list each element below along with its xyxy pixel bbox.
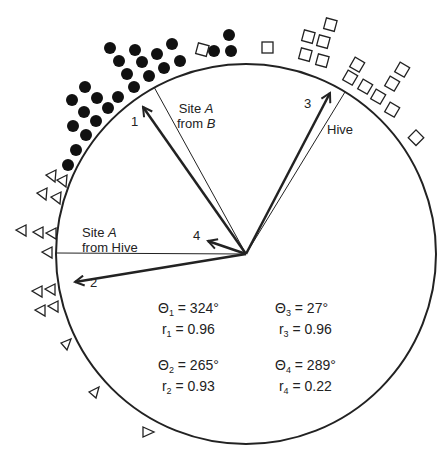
label-text: Site bbox=[82, 225, 108, 240]
stat-2: Θ2 = 265° r2 = 0.93 bbox=[158, 357, 219, 399]
r-value: = 0.96 bbox=[292, 321, 331, 337]
site-a-from-b-label: Site A from B bbox=[177, 101, 215, 131]
stat-3: Θ3 = 27° r3 = 0.96 bbox=[275, 300, 332, 342]
theta-symbol: Θ bbox=[275, 300, 286, 316]
r-value: = 0.93 bbox=[175, 378, 214, 394]
label-italic: A bbox=[108, 225, 117, 240]
theta-value: = 27° bbox=[295, 300, 328, 316]
arrow-4-label: 4 bbox=[193, 228, 200, 243]
label-italic: B bbox=[207, 116, 216, 131]
subscript: 2 bbox=[169, 365, 174, 375]
subscript: 4 bbox=[286, 365, 291, 375]
theta-value: = 324° bbox=[178, 300, 219, 316]
circular-diagram bbox=[0, 0, 444, 462]
label-italic: A bbox=[205, 101, 214, 116]
subscript: 1 bbox=[167, 329, 172, 339]
r-value: = 0.96 bbox=[175, 321, 214, 337]
hive-line bbox=[246, 92, 345, 254]
theta-value: = 289° bbox=[295, 357, 336, 373]
arrow-3-label: 3 bbox=[304, 96, 311, 111]
theta-symbol: Θ bbox=[158, 300, 169, 316]
subscript: 3 bbox=[284, 329, 289, 339]
arrow-1-label: 1 bbox=[131, 114, 138, 129]
stat-1: Θ1 = 324° r1 = 0.96 bbox=[158, 300, 219, 342]
triangle-markers bbox=[16, 170, 154, 437]
arrow-2-label: 2 bbox=[90, 275, 97, 290]
site-a-from-hive-label: Site A from Hive bbox=[82, 225, 138, 255]
stat-4: Θ4 = 289° r4 = 0.22 bbox=[275, 357, 336, 399]
hive-label: Hive bbox=[327, 122, 353, 137]
subscript: 4 bbox=[284, 386, 289, 396]
r-value: = 0.22 bbox=[292, 378, 331, 394]
subscript: 1 bbox=[169, 308, 174, 318]
label-text: from Hive bbox=[82, 240, 138, 255]
vector-3-arrow bbox=[246, 93, 330, 254]
theta-value: = 265° bbox=[178, 357, 219, 373]
theta-symbol: Θ bbox=[158, 357, 169, 373]
subscript: 3 bbox=[286, 308, 291, 318]
label-text: Site bbox=[179, 101, 205, 116]
theta-symbol: Θ bbox=[275, 357, 286, 373]
label-text: from bbox=[177, 116, 207, 131]
vector-2-arrow bbox=[75, 254, 246, 282]
subscript: 2 bbox=[167, 386, 172, 396]
